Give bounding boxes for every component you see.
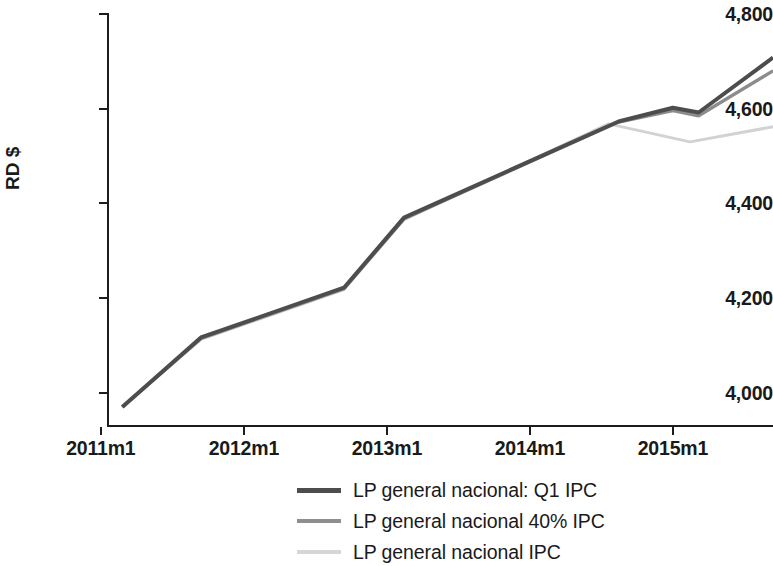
- legend-line-swatch: [297, 488, 341, 493]
- y-tick-mark: [99, 202, 107, 204]
- y-tick-mark: [99, 108, 107, 110]
- series-line: [122, 124, 773, 407]
- y-tick-label: 4,000: [681, 381, 773, 404]
- y-tick-mark: [99, 392, 107, 394]
- y-axis-line: [107, 13, 109, 427]
- legend-item-label: LP general nacional IPC: [353, 540, 561, 564]
- y-tick-label: 4,800: [681, 3, 773, 26]
- chart-legend: LP general nacional: Q1 IPCLP general na…: [297, 478, 605, 564]
- x-tick-label: 2012m1: [209, 437, 279, 460]
- legend-item-label: LP general nacional 40% IPC: [353, 509, 605, 533]
- x-tick-mark: [672, 427, 674, 435]
- x-tick-label: 2011m1: [66, 437, 135, 460]
- legend-line-swatch: [297, 550, 341, 554]
- y-tick-label: 4,200: [681, 287, 773, 310]
- x-tick-mark: [386, 427, 388, 435]
- series-line: [122, 71, 773, 407]
- legend-item[interactable]: LP general nacional IPC: [297, 540, 605, 564]
- x-tick-mark: [243, 427, 245, 435]
- legend-line-swatch: [297, 519, 341, 523]
- series-line: [122, 58, 773, 407]
- y-tick-mark: [99, 13, 107, 15]
- y-axis-title: RD $: [2, 147, 24, 190]
- chart-figure: RD $ 4,0004,2004,4004,6004,800 2011m1201…: [0, 0, 773, 566]
- x-tick-label: 2015m1: [638, 437, 708, 460]
- x-tick-mark: [529, 427, 531, 435]
- y-tick-label: 4,400: [681, 192, 773, 215]
- x-tick-label: 2014m1: [495, 437, 565, 460]
- y-tick-label: 4,600: [681, 97, 773, 120]
- x-tick-label: 2013m1: [352, 437, 422, 460]
- legend-item[interactable]: LP general nacional: Q1 IPC: [297, 478, 605, 502]
- legend-item[interactable]: LP general nacional 40% IPC: [297, 509, 605, 533]
- y-tick-mark: [99, 297, 107, 299]
- x-tick-mark: [100, 427, 102, 435]
- legend-item-label: LP general nacional: Q1 IPC: [353, 478, 597, 502]
